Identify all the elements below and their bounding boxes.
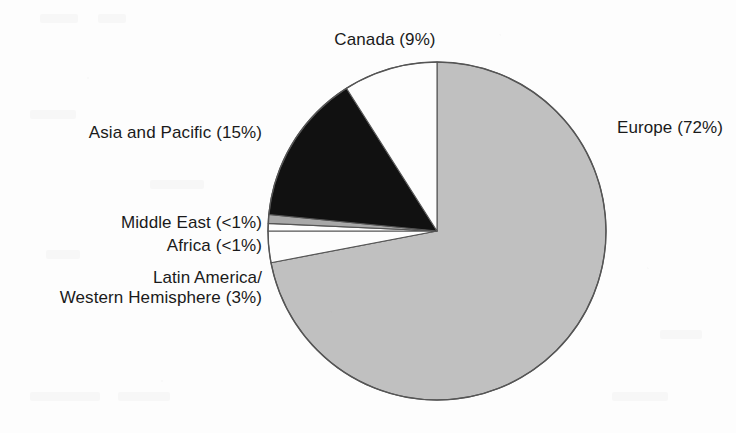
slice-label-latin-america-line1: Latin America/ xyxy=(10,268,262,288)
slice-label-africa-text: Africa (<1%) xyxy=(42,236,262,256)
slice-label-asia-and-pacific-text: Asia and Pacific (15%) xyxy=(52,123,262,143)
slice-label-europe: Europe (72%) xyxy=(617,118,736,138)
slice-label-middle-east-text: Middle East (<1%) xyxy=(42,213,262,233)
pie-chart: Canada (9%) Europe (72%) Asia and Pacifi… xyxy=(0,0,736,433)
slice-label-canada: Canada (9%) xyxy=(280,30,490,50)
pie-slices-group xyxy=(268,62,606,400)
slice-label-middle-east: Middle East (<1%) xyxy=(42,213,262,233)
slice-label-europe-text: Europe (72%) xyxy=(617,118,736,138)
slice-label-latin-america-line2: Western Hemisphere (3%) xyxy=(10,288,262,308)
slice-label-africa: Africa (<1%) xyxy=(42,236,262,256)
slice-label-latin-america: Latin America/ Western Hemisphere (3%) xyxy=(10,268,262,308)
slice-label-asia-and-pacific: Asia and Pacific (15%) xyxy=(52,123,262,143)
slice-label-canada-text: Canada (9%) xyxy=(280,30,490,50)
